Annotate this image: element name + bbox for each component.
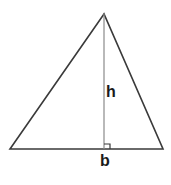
base-label: b [100,152,110,169]
triangle-diagram: h b [0,0,171,185]
height-label: h [106,83,116,100]
triangle-shape [10,14,163,149]
